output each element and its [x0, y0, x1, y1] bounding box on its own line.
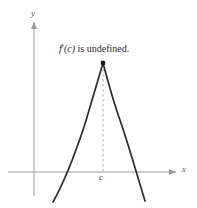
- y-axis-arrowhead: [31, 22, 37, 29]
- curve-left-branch: [53, 63, 103, 202]
- x-axis-arrowhead: [169, 169, 176, 175]
- annotation-argument: (c): [64, 43, 75, 54]
- x-axis-label: x: [182, 165, 186, 174]
- curve-right-branch: [103, 63, 145, 201]
- derivative-undefined-annotation: f′(c) is undefined.: [59, 43, 129, 54]
- c-point-label: c: [99, 173, 103, 182]
- annotation-rest-text: is undefined.: [75, 43, 129, 54]
- cusp-point-marker: [101, 61, 106, 66]
- y-axis-label: y: [31, 9, 35, 18]
- cusp-graph-figure: f′(c) is undefined. y x c: [0, 0, 197, 208]
